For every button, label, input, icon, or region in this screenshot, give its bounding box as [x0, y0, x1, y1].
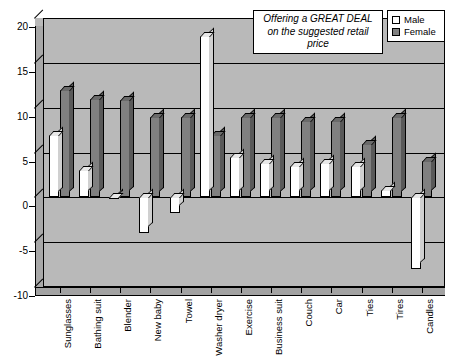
- bar-exercise-male: [230, 157, 240, 197]
- x-tick-sunglasses: [60, 287, 61, 293]
- bar-car-male: [320, 163, 330, 197]
- x-axis-label-tires: Tires: [395, 299, 405, 320]
- x-axis-label-couch: Couch: [304, 299, 314, 326]
- x-axis-label-bathing-suit: Bathing suit: [93, 299, 103, 349]
- bar-blender-female: [120, 100, 130, 197]
- bar-side-face: [69, 81, 74, 191]
- bar-side-face: [190, 108, 195, 191]
- x-axis-label-towel: Towel: [184, 299, 194, 323]
- x-axis-label-blender: Blender: [123, 299, 133, 332]
- bar-bathing-suit-male: [79, 170, 89, 197]
- bar-side-face: [99, 90, 104, 191]
- x-axis-label-washer-dryer: Washer dryer: [214, 299, 224, 356]
- legend-label-male: Male: [404, 15, 425, 25]
- x-tick-couch: [301, 287, 302, 293]
- bar-couch-male: [290, 166, 300, 197]
- bar-sunglasses-male: [49, 135, 59, 198]
- x-axis-label-new-baby: New baby: [153, 299, 163, 341]
- x-tick-washer-dryer: [211, 287, 212, 293]
- chart-legend: Male Female: [387, 10, 445, 42]
- bar-side-face: [159, 108, 164, 191]
- bar-side-face: [129, 92, 134, 191]
- bar-side-face: [401, 108, 406, 191]
- legend-swatch-male-icon: [392, 16, 400, 24]
- bar-towel-female: [181, 117, 191, 198]
- legend-swatch-female-icon: [392, 28, 400, 36]
- bar-side-face: [420, 189, 425, 263]
- x-axis-label-exercise: Exercise: [244, 299, 254, 335]
- bar-new-baby-male: [139, 197, 149, 233]
- bar-side-face: [310, 113, 315, 192]
- x-tick-car: [331, 287, 332, 293]
- x-tick-blender: [120, 287, 121, 293]
- bar-side-face: [250, 108, 255, 191]
- x-tick-candles: [422, 287, 423, 293]
- bar-candles-male: [411, 197, 421, 269]
- x-tick-bathing-suit: [90, 287, 91, 293]
- x-tick-exercise: [241, 287, 242, 293]
- bar-business-suit-male: [260, 163, 270, 197]
- x-tick-ties: [362, 287, 363, 293]
- annotation-box: Offering a GREAT DEAL on the suggested r…: [253, 10, 383, 54]
- bar-blender-male: [109, 197, 119, 199]
- x-tick-towel: [181, 287, 182, 293]
- x-axis-label-sunglasses: Sunglasses: [63, 299, 73, 348]
- x-axis-label-ties: Ties: [365, 299, 375, 317]
- bar-ties-male: [351, 166, 361, 197]
- x-axis-label-candles: Candles: [425, 299, 435, 334]
- x-tick-business-suit: [271, 287, 272, 293]
- bar-washer-dryer-male: [200, 36, 210, 197]
- legend-item-female[interactable]: Female: [392, 26, 440, 38]
- bar-towel-male: [170, 197, 180, 212]
- legend-item-male[interactable]: Male: [392, 14, 440, 26]
- bar-tires-male: [381, 190, 391, 197]
- legend-label-female: Female: [404, 27, 436, 37]
- annotation-text: Offering a GREAT DEAL on the suggested r…: [257, 13, 379, 51]
- x-axis-label-business-suit: Business suit: [274, 299, 284, 355]
- x-tick-tires: [392, 287, 393, 293]
- bar-new-baby-female: [150, 117, 160, 198]
- bar-side-face: [340, 113, 345, 192]
- x-axis-label-car: Car: [334, 299, 344, 314]
- bar-side-face: [209, 27, 214, 191]
- x-tick-new-baby: [150, 287, 151, 293]
- bar-side-face: [280, 108, 285, 191]
